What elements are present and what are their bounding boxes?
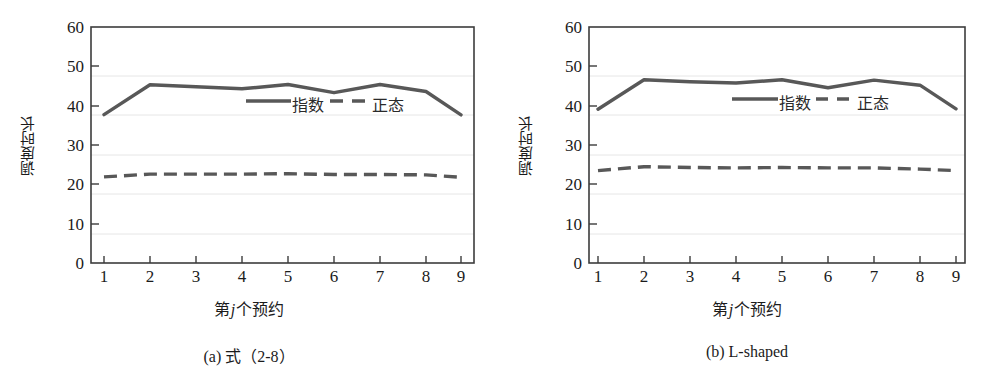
panel-caption-a: (a) 式（2-8） [0,343,498,367]
legend-label-exponential-a: 指数 [292,92,324,116]
legend-label-normal-b: 正态 [857,90,889,114]
x-tick-7-b: 7 [864,268,884,285]
x-tick-9-b: 9 [946,268,966,285]
x-axis-label-prefix-b: 第 [712,300,728,319]
x-axis-label-b: 第j个预约 [498,296,996,320]
x-tick-7-a: 7 [370,268,390,285]
x-tick-2-a: 2 [140,268,160,285]
plot-area-a [0,0,498,382]
figure-root: 调度时长 60 50 40 30 20 10 0 [0,0,997,382]
x-axis-label-prefix-a: 第 [214,300,230,319]
x-axis-label-suffix-a: 个预约 [236,300,284,319]
x-tick-8-b: 8 [910,268,930,285]
x-tick-8-a: 8 [416,268,436,285]
x-axis-label-a: 第j个预约 [0,296,498,320]
legend-label-exponential-b: 指数 [779,90,811,114]
x-tick-3-a: 3 [186,268,206,285]
x-tick-1-a: 1 [94,268,114,285]
chart-panel-b: 调度时长 60 50 40 30 20 10 0 [498,0,996,382]
x-axis-label-suffix-b: 个预约 [734,300,782,319]
x-tick-4-b: 4 [726,268,746,285]
chart-panel-a: 调度时长 60 50 40 30 20 10 0 [0,0,498,382]
x-tick-5-a: 5 [278,268,298,285]
x-tick-1-b: 1 [588,268,608,285]
x-tick-4-a: 4 [232,268,252,285]
x-tick-5-b: 5 [772,268,792,285]
legend-label-normal-a: 正态 [372,92,404,116]
series-line-normal-b [598,167,956,171]
x-tick-6-a: 6 [324,268,344,285]
series-line-exponential-b [598,80,956,109]
x-tick-6-b: 6 [818,268,838,285]
series-line-normal-a [104,174,461,178]
panel-caption-b: (b) L-shaped [498,343,996,361]
plot-area-b [498,0,996,382]
x-tick-3-b: 3 [680,268,700,285]
x-tick-9-a: 9 [451,268,471,285]
x-tick-2-b: 2 [634,268,654,285]
